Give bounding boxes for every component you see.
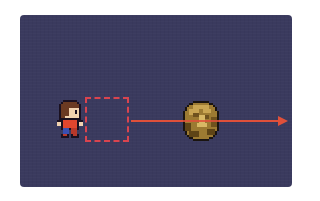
game-scene-panel: [20, 15, 292, 187]
player-character-icon: [57, 100, 83, 138]
arrow-right-icon: [278, 116, 288, 126]
target-tile-highlight: [85, 97, 129, 142]
trajectory-line-overlay: [181, 120, 221, 122]
